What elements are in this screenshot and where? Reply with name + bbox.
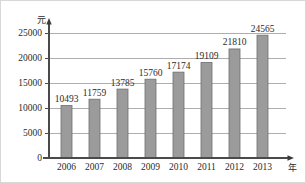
y-tick-label-15000: 15000: [18, 78, 42, 88]
chart-canvas: 0 5000 10000 15000 20000 25000 元 2006 20…: [1, 1, 306, 183]
bar-value-2012: 21810: [223, 37, 247, 47]
x-tick-labels: 2006 2007 2008 2009 2010 2011 2012 2013: [57, 162, 272, 172]
y-axis: [46, 18, 51, 158]
y-tick-labels: 0 5000 10000 15000 20000 25000: [18, 28, 42, 163]
x-tick-label-2007: 2007: [85, 162, 104, 172]
bar-value-2006: 10493: [55, 94, 79, 104]
y-tick-marks: [45, 33, 50, 158]
x-tick-label-2010: 2010: [169, 162, 188, 172]
chart-screenshot: 0 5000 10000 15000 20000 25000 元 2006 20…: [0, 0, 306, 183]
y-tick-label-25000: 25000: [18, 28, 42, 38]
bar-2009: [145, 79, 156, 158]
y-tick-label-20000: 20000: [18, 53, 42, 63]
bar-2012: [229, 49, 240, 158]
x-tick-label-2013: 2013: [253, 162, 272, 172]
bar-2011: [201, 62, 212, 158]
bar-value-2011: 19109: [195, 51, 219, 61]
x-tick-label-2008: 2008: [113, 162, 132, 172]
y-tick-label-5000: 5000: [23, 128, 42, 138]
y-tick-label-10000: 10000: [18, 103, 42, 113]
bar-chart: 0 5000 10000 15000 20000 25000 元 2006 20…: [1, 1, 306, 183]
y-axis-unit-label: 元: [37, 15, 46, 25]
bar-2010: [173, 72, 184, 158]
x-axis: [43, 155, 294, 160]
x-tick-label-2012: 2012: [225, 162, 244, 172]
bar-value-2013: 24565: [251, 24, 275, 34]
x-tick-label-2006: 2006: [57, 162, 76, 172]
x-tick-label-2009: 2009: [141, 162, 160, 172]
x-axis-unit-label: 年: [288, 162, 297, 173]
y-tick-label-0: 0: [37, 153, 42, 163]
bar-value-2010: 17174: [167, 61, 191, 71]
bar-2008: [117, 89, 128, 158]
bar-2006: [61, 106, 72, 158]
bar-value-2009: 15760: [139, 68, 163, 78]
gridlines: [49, 33, 286, 133]
bar-2007: [89, 99, 100, 158]
x-tick-label-2011: 2011: [197, 162, 216, 172]
bar-value-2008: 13785: [111, 78, 135, 88]
bar-2013: [257, 35, 268, 158]
bar-value-2007: 11759: [83, 88, 107, 98]
bar-value-labels: 10493 11759 13785 15760 17174 19109 2181…: [55, 24, 275, 104]
